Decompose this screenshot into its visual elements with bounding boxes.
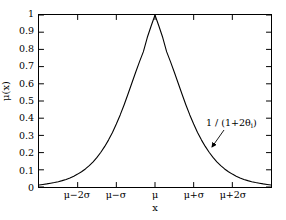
data-curve [39, 15, 271, 185]
y-tick-label: 1 [28, 9, 34, 19]
annotation-prefix: 1 / (1+2θ [206, 117, 251, 128]
x-tick-label: μ [152, 190, 158, 200]
y-tick-label: 0.6 [19, 79, 34, 89]
x-tick-label: μ+σ [184, 190, 205, 200]
plot-area [38, 14, 272, 188]
y-tick-label: 0.4 [19, 114, 34, 124]
annotation-suffix: ) [253, 117, 257, 128]
y-tick-label: 0.2 [19, 148, 34, 158]
figure-container: 0 0.1 0.2 0.3 0.4 0.5 0.6 0.7 0.8 0.9 1 … [0, 0, 286, 220]
y-tick-label: 0.9 [19, 27, 34, 37]
y-axis-label: μ(x) [1, 81, 11, 101]
y-tick-label: 0.5 [19, 96, 34, 106]
x-tick-label: μ+2σ [220, 190, 247, 200]
x-tick-label: μ−σ [106, 190, 127, 200]
y-tick-label: 0.1 [19, 166, 34, 176]
curve-svg [39, 15, 271, 187]
y-axis-ticks [39, 15, 44, 187]
y-axis-tick-labels: 0 0.1 0.2 0.3 0.4 0.5 0.6 0.7 0.8 0.9 1 [0, 0, 36, 220]
y-axis-ticks-right [266, 15, 271, 187]
x-tick-label: μ−2σ [64, 190, 91, 200]
y-tick-label: 0.7 [19, 61, 34, 71]
x-axis-tick-labels: μ−2σ μ−σ μ μ+σ μ+2σ [0, 190, 286, 206]
curve-annotation-label: 1 / (1+2θi) [206, 118, 257, 130]
x-axis-ticks [78, 182, 233, 187]
y-tick-label: 0.8 [19, 44, 34, 54]
y-tick-label: 0.3 [19, 131, 34, 141]
x-axis-label: x [152, 203, 158, 213]
